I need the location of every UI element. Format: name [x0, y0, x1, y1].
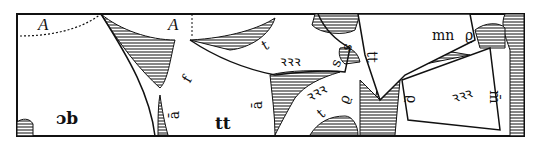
diagram-drawing — [0, 0, 543, 147]
label-a-bar-left: ā — [167, 111, 181, 119]
label-db: ɔb — [56, 110, 78, 127]
label-tt-right: tt — [365, 51, 379, 62]
label-m-right: m̄ — [488, 90, 502, 103]
label-mn: mn — [432, 28, 454, 42]
label-A-left: A — [38, 16, 48, 33]
label-o-top-right: ϱ — [465, 28, 473, 42]
label-tt-bottom: tt — [215, 115, 231, 132]
label-a-bar-mid: ā — [250, 101, 264, 109]
pattern-diagram: A A ɔb f ā tt ā t ꝛꝛꝛ s s ꝛꝛꝛ t ϱ tt mn … — [0, 0, 543, 147]
label-o-lower-right: ϱ — [405, 95, 419, 103]
label-rrr-upper: ꝛꝛꝛ — [280, 54, 301, 68]
label-A-mid: A — [168, 16, 178, 33]
